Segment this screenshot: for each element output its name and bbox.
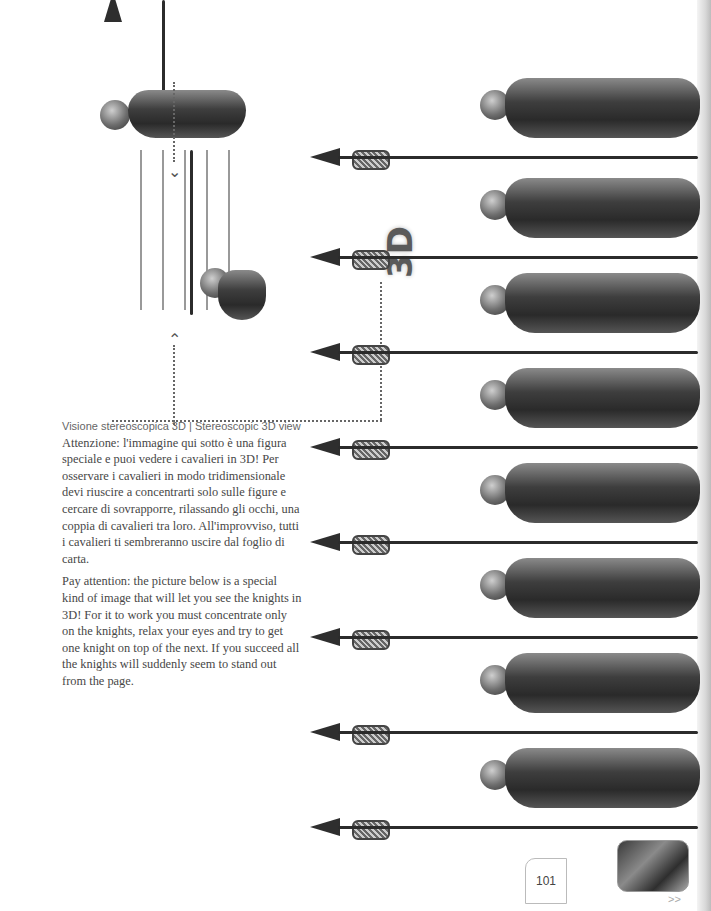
stereo-preview-illustration	[100, 150, 270, 325]
spear	[338, 156, 698, 159]
spear-ornament	[352, 440, 390, 460]
knight-body	[505, 653, 700, 713]
spear-ornament	[352, 250, 390, 270]
knight-body	[505, 178, 700, 238]
spear	[338, 256, 698, 259]
spear	[338, 351, 698, 354]
page-number: 101	[525, 858, 567, 904]
spear-tip-icon	[310, 438, 340, 456]
spear-tip-icon	[310, 628, 340, 646]
knight-body	[505, 463, 700, 523]
description-text: Visione stereoscopica 3D | Stereoscopic …	[62, 418, 302, 696]
spear-ornament	[352, 150, 390, 170]
spear-tip-icon	[310, 343, 340, 361]
paragraph-en: Pay attention: the picture below is a sp…	[62, 573, 302, 689]
spear-tip-icon	[310, 723, 340, 741]
next-page-indicator[interactable]: >>	[668, 893, 681, 905]
ghost-spear	[140, 150, 142, 310]
helmet	[100, 100, 130, 130]
knight-body	[218, 270, 266, 320]
spear	[338, 541, 698, 544]
spear	[338, 731, 698, 734]
paragraph-it: Attenzione: l'immagine qui sotto è una f…	[62, 436, 299, 566]
knight-body	[505, 558, 700, 618]
single-knight-illustration	[0, 0, 260, 140]
knight-body	[505, 78, 700, 138]
ghost-spear	[184, 150, 186, 310]
dotted-arrow-down	[173, 345, 175, 425]
knight-body	[505, 748, 700, 808]
knight-body	[505, 273, 700, 333]
ghost-spear	[162, 150, 164, 310]
spear-ornament	[352, 630, 390, 650]
spear	[190, 150, 193, 315]
knights-stereogram	[310, 130, 700, 840]
bilingual-paragraph-it: Visione stereoscopica 3D | Stereoscopic …	[62, 418, 302, 567]
dotted-arrow-up	[173, 82, 175, 162]
section-heading-it: Visione stereoscopica 3D	[62, 420, 186, 432]
spear-tip-icon	[310, 533, 340, 551]
spear	[338, 826, 698, 829]
spear-tip-icon	[310, 818, 340, 836]
spear-ornament	[352, 345, 390, 365]
knight-body	[128, 90, 246, 138]
spear-tip-icon	[310, 148, 340, 166]
chapter-thumbnail	[617, 840, 689, 892]
spear-tip-icon	[310, 248, 340, 266]
heading-separator: |	[186, 420, 195, 432]
spear	[338, 446, 698, 449]
spear-ornament	[352, 725, 390, 745]
spear-ornament	[352, 820, 390, 840]
spear-ornament	[352, 535, 390, 555]
spear	[338, 636, 698, 639]
arrow-down-icon: ⌄	[168, 162, 181, 181]
knight-body	[505, 368, 700, 428]
section-heading-en: Stereoscopic 3D view	[195, 420, 301, 432]
spear-tip-icon	[104, 0, 122, 22]
